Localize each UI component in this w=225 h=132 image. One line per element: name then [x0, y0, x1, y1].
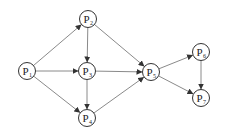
- node-subscript: 7: [203, 99, 206, 105]
- node-label: P: [83, 112, 89, 124]
- node-subscript: 5: [153, 73, 156, 79]
- precedence-graph: P1P2P3P4P5P6P7: [0, 0, 225, 132]
- node-label: P: [84, 13, 90, 25]
- node-p7: P7: [193, 90, 210, 107]
- node-p3: P3: [79, 63, 96, 80]
- nodes-group: P1P2P3P4P5P6P7: [19, 11, 210, 127]
- node-subscript: 1: [29, 72, 32, 78]
- edge-p4-to-p5: [94, 77, 144, 113]
- node-subscript: 3: [89, 72, 92, 78]
- edge-p1-to-p4: [34, 76, 80, 112]
- node-subscript: 4: [89, 119, 92, 125]
- edge-p3-to-p5: [96, 71, 143, 72]
- node-p1: P1: [19, 63, 36, 80]
- edges-group: [34, 25, 202, 114]
- node-p6: P6: [193, 44, 210, 61]
- node-p5: P5: [143, 64, 160, 81]
- node-label: P: [23, 65, 29, 77]
- edge-p2-to-p5: [95, 25, 145, 67]
- edge-p5-to-p6: [159, 55, 193, 69]
- node-label: P: [197, 92, 203, 104]
- node-p4: P4: [79, 110, 96, 127]
- node-label: P: [197, 46, 203, 58]
- node-label: P: [83, 65, 89, 77]
- node-p2: P2: [80, 11, 97, 28]
- edge-p5-to-p7: [159, 76, 194, 94]
- node-subscript: 2: [90, 20, 93, 26]
- node-subscript: 6: [203, 53, 206, 59]
- edge-p1-to-p2: [34, 25, 82, 66]
- node-label: P: [147, 66, 153, 78]
- edge-p2-to-p3: [87, 28, 88, 63]
